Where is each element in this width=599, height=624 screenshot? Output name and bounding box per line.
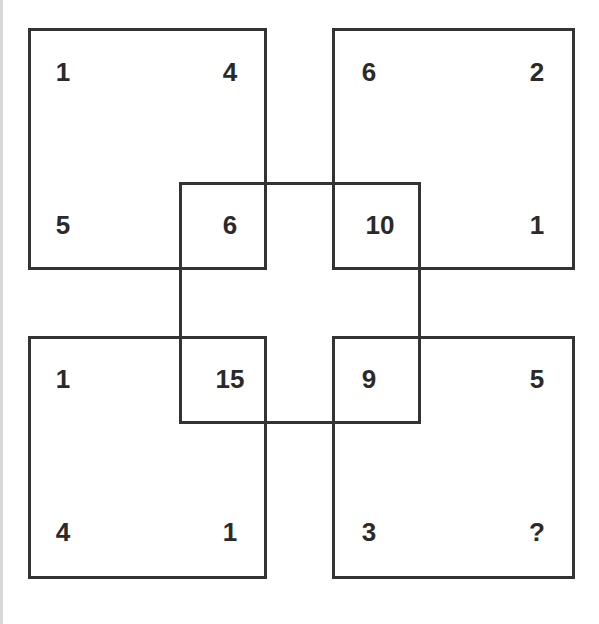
bl-square-bottom-right-number: 1 <box>223 519 237 545</box>
br-square-top-right-number: 5 <box>530 366 544 392</box>
left-edge-border <box>0 0 3 624</box>
tl-square-bottom-left-number: 5 <box>56 212 70 238</box>
tr-square-top-right-number: 2 <box>530 59 544 85</box>
bl-square-top-right-number: 15 <box>216 366 245 392</box>
tr-square-bottom-left-number: 10 <box>366 212 395 238</box>
tl-square-top-right-number: 4 <box>223 59 237 85</box>
tl-square-top-left-number: 1 <box>56 59 70 85</box>
tr-square-top-left-number: 6 <box>362 59 376 85</box>
tl-square-bottom-right-number: 6 <box>223 212 237 238</box>
tr-square-bottom-right-number: 1 <box>530 212 544 238</box>
bl-square-top-left-number: 1 <box>56 366 70 392</box>
br-square-bottom-left-number: 3 <box>362 519 376 545</box>
br-square-unknown-number: ? <box>529 519 545 545</box>
bl-square-bottom-left-number: 4 <box>56 519 70 545</box>
br-square-top-left-number: 9 <box>362 366 376 392</box>
